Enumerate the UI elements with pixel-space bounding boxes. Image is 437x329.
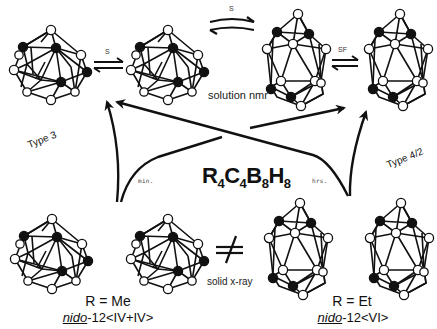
cluster-bottom-3 bbox=[264, 198, 332, 299]
label-eq-s2: S bbox=[229, 5, 234, 12]
cluster-top-1 bbox=[9, 25, 91, 104]
cluster-top-2 bbox=[126, 25, 208, 104]
equilibrium-arrow-3 bbox=[332, 56, 358, 70]
label-solution-nmr: solution nmr bbox=[208, 89, 268, 101]
equilibrium-arrow-1 bbox=[94, 58, 123, 72]
label-eq-s1: S bbox=[105, 48, 110, 55]
equilibrium-arrow-2 bbox=[210, 17, 254, 34]
label-min: min. bbox=[138, 177, 154, 184]
cluster-bottom-2 bbox=[126, 214, 208, 293]
molecular-formula: R4C4B8H8 bbox=[202, 163, 291, 191]
label-nido-right: nido-12<VI> bbox=[300, 310, 406, 325]
label-hrs: hrs. bbox=[312, 177, 328, 184]
label-nido-left: nido-12<IV+IV> bbox=[48, 310, 168, 325]
label-r-me: R = Me bbox=[58, 293, 158, 309]
cluster-bottom-4 bbox=[365, 198, 433, 299]
cluster-top-3 bbox=[262, 9, 330, 110]
label-r-et: R = Et bbox=[302, 293, 402, 309]
cluster-top-4 bbox=[364, 9, 432, 110]
cluster-bottom-1 bbox=[10, 214, 92, 293]
not-equal-sign bbox=[216, 236, 243, 263]
label-solid-xray: solid x-ray bbox=[207, 276, 253, 287]
label-eq-sf: SF bbox=[338, 46, 347, 53]
